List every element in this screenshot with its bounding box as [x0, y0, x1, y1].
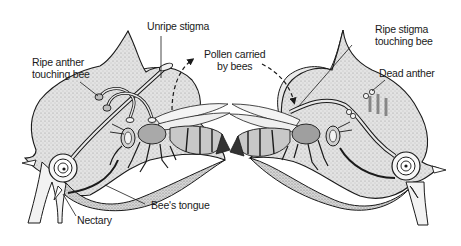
label-ripe-stigma-line2: touching bee	[375, 35, 433, 47]
label-pollen-carried: Pollen carried by bees	[204, 48, 265, 72]
label-ripe-stigma-line1: Ripe stigma	[375, 23, 433, 35]
pollination-diagram: Unripe stigma Ripe anther touching bee P…	[0, 0, 461, 246]
label-ripe-stigma: Ripe stigma touching bee	[375, 23, 433, 47]
label-unripe-stigma: Unripe stigma	[147, 20, 209, 32]
label-ripe-anther-line1: Ripe anther	[32, 56, 90, 68]
label-nectary: Nectary	[77, 214, 112, 226]
label-ripe-anther-line2: touching bee	[32, 68, 90, 80]
label-pollen-carried-line2: by bees	[204, 60, 265, 72]
label-pollen-carried-line1: Pollen carried	[204, 48, 265, 60]
label-ripe-anther: Ripe anther touching bee	[32, 56, 90, 80]
label-dead-anther: Dead anther	[379, 67, 435, 79]
label-bees-tongue: Bee's tongue	[151, 199, 210, 211]
